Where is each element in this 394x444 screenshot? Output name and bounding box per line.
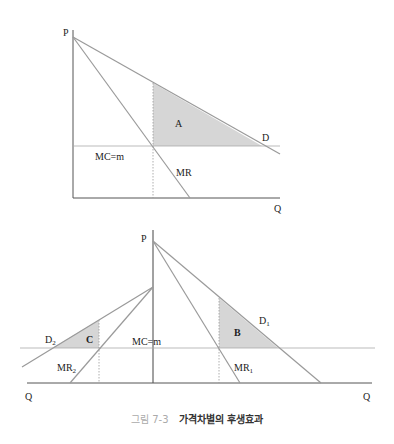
d2-label: D2 [45, 334, 56, 347]
figure-number: 그림 7-3 [131, 414, 169, 425]
mr-label: MR [176, 167, 192, 178]
demand-label: D [262, 132, 269, 143]
p-axis-label: P [63, 27, 69, 38]
figure: P Q D MR MC=m A P Q Q D1 MR1 D2 MR2 MC=m… [0, 0, 394, 444]
d1-label: D1 [259, 315, 270, 328]
mr1-label: MR1 [234, 362, 254, 375]
p-axis-label: P [141, 233, 147, 244]
mr2-label: MR2 [57, 362, 77, 375]
bottom-chart: P Q Q D1 MR1 D2 MR2 MC=m B C [20, 230, 375, 402]
diagram-svg: P Q D MR MC=m A P Q Q D1 MR1 D2 MR2 MC=m… [0, 0, 394, 444]
figure-title: 가격차별의 후생효과 [179, 414, 263, 425]
q-axis-right-label: Q [363, 391, 371, 402]
area-b-label: B [234, 327, 241, 338]
mc-label: MC=m [95, 151, 124, 162]
d2-line [22, 287, 153, 367]
mc-label: MC=m [132, 336, 161, 347]
area-a-label: A [175, 118, 183, 129]
q-axis-label: Q [274, 203, 282, 214]
figure-caption: 그림 7-3가격차별의 후생효과 [0, 411, 394, 426]
top-chart: P Q D MR MC=m A [63, 27, 282, 214]
area-a-fill [153, 83, 262, 146]
area-c-label: C [86, 334, 93, 345]
q-axis-left-label: Q [25, 391, 33, 402]
